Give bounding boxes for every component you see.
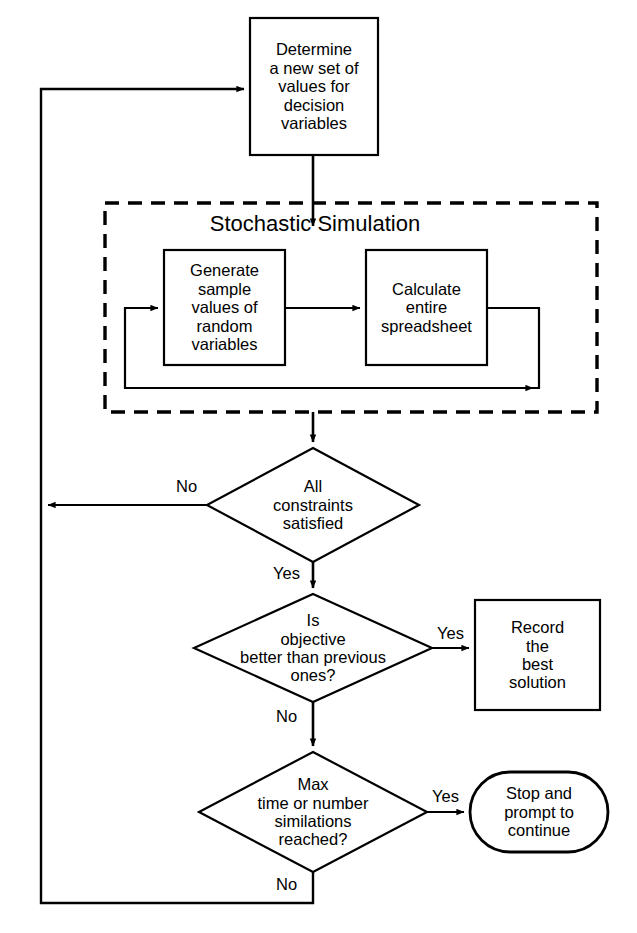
- calculate-spreadsheet-box: [366, 250, 487, 365]
- edge-label-objective-no: No: [276, 707, 297, 726]
- edge-label-constraints-yes: Yes: [273, 564, 300, 583]
- record-solution-box: [475, 600, 600, 710]
- constraints-check-diamond: [207, 448, 419, 562]
- edge-label-limit-no: No: [276, 875, 297, 894]
- edge-label-objective-yes: Yes: [437, 624, 464, 643]
- flowchart-lines: [0, 0, 637, 933]
- edge-label-constraints-no: No: [176, 477, 197, 496]
- stop-prompt-stadium: [470, 772, 608, 852]
- generate-samples-box: [164, 250, 285, 365]
- determine-values-box: [250, 18, 378, 155]
- stochastic-simulation-group-title: Stochastic Simulation: [105, 211, 525, 237]
- limit-check-diamond: [199, 752, 427, 872]
- objective-check-diamond: [194, 594, 432, 702]
- edge-label-limit-yes: Yes: [432, 787, 459, 806]
- flowchart-canvas: Determine a new set of values for decisi…: [0, 0, 637, 933]
